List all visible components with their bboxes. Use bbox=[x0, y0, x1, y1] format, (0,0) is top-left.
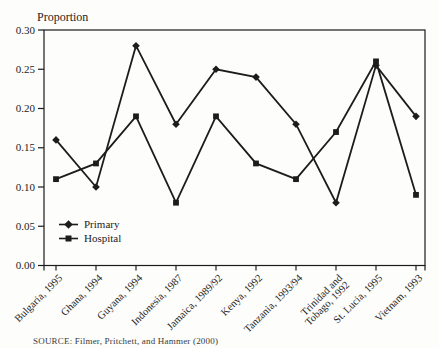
y-axis-tick-label: 0.30 bbox=[16, 24, 36, 36]
data-point-hospital bbox=[253, 161, 259, 167]
primary-diamond-marker-icon bbox=[58, 219, 79, 230]
y-axis-tick-label: 0.05 bbox=[16, 220, 36, 232]
data-point-primary bbox=[132, 42, 140, 50]
data-point-hospital bbox=[413, 192, 419, 198]
legend-item-primary: Primary bbox=[58, 217, 121, 231]
data-point-primary bbox=[332, 199, 340, 207]
statistical-line-chart-figure: Proportion 0.000.050.100.150.200.250.30B… bbox=[0, 0, 439, 348]
x-axis-tick-label: Bulgaria, 1995 bbox=[13, 272, 65, 324]
series-line-primary bbox=[56, 46, 416, 203]
chart-canvas: 0.000.050.100.150.200.250.30Bulgaria, 19… bbox=[0, 0, 439, 348]
legend-label-primary: Primary bbox=[84, 218, 119, 230]
y-axis-tick-label: 0.25 bbox=[16, 63, 36, 75]
y-axis-tick-label: 0.10 bbox=[16, 181, 36, 193]
data-point-hospital bbox=[93, 161, 99, 167]
data-point-hospital bbox=[173, 200, 179, 206]
y-axis-tick-label: 0.00 bbox=[16, 259, 36, 271]
source-note: SOURCE: Filmer, Pritchett, and Hammer (2… bbox=[33, 336, 218, 346]
hospital-square-marker-icon bbox=[58, 233, 79, 244]
series-line-hospital bbox=[56, 61, 416, 202]
y-axis-tick-label: 0.15 bbox=[16, 141, 36, 153]
data-point-hospital bbox=[213, 113, 219, 119]
y-axis-tick-label: 0.20 bbox=[16, 102, 36, 114]
data-point-hospital bbox=[133, 113, 139, 119]
data-point-hospital bbox=[333, 129, 339, 135]
legend-label-hospital: Hospital bbox=[84, 232, 121, 244]
data-point-hospital bbox=[53, 176, 59, 182]
data-point-hospital bbox=[293, 176, 299, 182]
legend: Primary Hospital bbox=[58, 217, 121, 245]
data-point-hospital bbox=[373, 59, 379, 65]
legend-item-hospital: Hospital bbox=[58, 231, 121, 245]
